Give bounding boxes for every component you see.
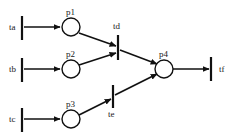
place-label-p3: p3 — [66, 100, 75, 109]
arc-td-p4 — [120, 50, 157, 64]
transition-label-td: td — [113, 22, 120, 31]
transition-group — [22, 16, 211, 132]
place-group — [62, 18, 173, 128]
place-circle-p3[interactable] — [62, 110, 80, 128]
place-circle-p2[interactable] — [62, 60, 80, 78]
arc-p1-td — [79, 33, 116, 46]
arc-p2-td — [79, 53, 116, 65]
place-label-p2: p2 — [66, 50, 75, 59]
place-label-p4: p4 — [159, 50, 168, 59]
place-circle-p4[interactable] — [155, 60, 173, 78]
arc-te-p4 — [115, 74, 157, 95]
arc-p3-te — [79, 99, 111, 115]
transition-label-tc: tc — [9, 115, 16, 124]
transition-label-ta: ta — [9, 23, 16, 32]
transition-label-tf: tf — [219, 65, 225, 74]
transition-label-te: te — [108, 110, 115, 119]
transition-label-tb: tb — [9, 65, 16, 74]
petri-net-diagram: ta tb tc td te tf p1 p2 p3 p4 — [0, 0, 236, 140]
place-circle-p1[interactable] — [62, 18, 80, 36]
place-label-p1: p1 — [66, 8, 75, 17]
arc-group — [24, 27, 209, 119]
